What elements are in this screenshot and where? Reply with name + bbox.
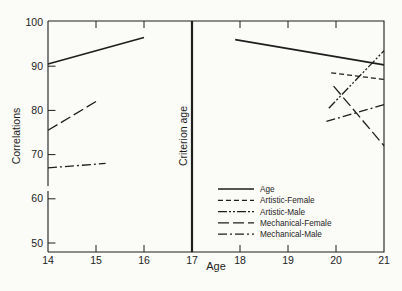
x-tick-label: 19 [282, 254, 294, 266]
x-tick-label: 17 [186, 254, 198, 266]
y-axis-title: Correlations [10, 108, 22, 165]
series-line-mechanical-male [48, 163, 106, 167]
legend-label: Mechanical-Female [260, 219, 332, 228]
y-tick-label: 90 [31, 60, 43, 72]
figure: 50607080901001415161718192021AgeArtistic… [0, 0, 402, 291]
series-line-mechanical-male [326, 105, 384, 122]
y-tick-label: 50 [31, 237, 43, 249]
legend-label: Mechanical-Male [260, 230, 322, 239]
x-axis-title: Age [206, 260, 226, 272]
y-tick-label: 100 [25, 16, 43, 28]
series-line-age [48, 37, 144, 64]
series-line-mechanical-female [334, 86, 384, 146]
legend-label: Artistic-Male [260, 208, 305, 217]
x-tick-label: 14 [42, 254, 54, 266]
x-tick-label: 18 [234, 254, 246, 266]
correlation-chart: 50607080901001415161718192021AgeArtistic… [0, 0, 402, 291]
x-tick-label: 20 [330, 254, 342, 266]
series-line-age [235, 40, 384, 65]
legend-label: Age [260, 185, 275, 194]
series-line-mechanical-female [48, 102, 96, 131]
y-tick-label: 70 [31, 148, 43, 160]
y-tick-label: 80 [31, 104, 43, 116]
legend-label: Artistic-Female [260, 196, 315, 205]
criterion-age-label: Criterion age [177, 106, 189, 166]
x-tick-label: 15 [90, 254, 102, 266]
x-tick-label: 16 [138, 254, 150, 266]
x-tick-label: 21 [378, 254, 390, 266]
y-tick-label: 60 [31, 192, 43, 204]
